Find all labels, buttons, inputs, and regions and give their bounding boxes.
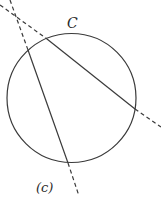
curve-label: C bbox=[67, 15, 78, 31]
secant-1-chord bbox=[28, 50, 68, 163]
figure-canvas: C (c) bbox=[0, 0, 161, 200]
secant-line-2 bbox=[0, 5, 161, 127]
secant-2-dashed-lower bbox=[135, 109, 161, 127]
circle-c bbox=[7, 34, 136, 163]
secant-1-dashed-lower bbox=[68, 163, 79, 196]
diagram-svg bbox=[0, 0, 161, 200]
secant-1-dashed-upper bbox=[10, 0, 28, 50]
secant-2-chord bbox=[47, 39, 135, 109]
secant-2-dashed-upper bbox=[0, 5, 47, 39]
figure-caption: (c) bbox=[36, 180, 53, 195]
